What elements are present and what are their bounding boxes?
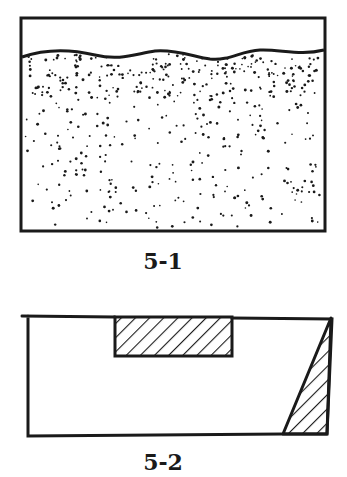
figure-5-2: [22, 316, 332, 436]
hatched-wedge: [283, 318, 331, 434]
diagram-canvas: [0, 0, 347, 477]
figure-label-5-2: 5-2: [103, 449, 223, 475]
figure-5-1: [21, 18, 325, 231]
stipple-sediment: [25, 53, 321, 229]
hatched-notch: [115, 317, 232, 356]
wavy-boundary-line: [22, 50, 324, 59]
figure-label-5-1: 5-1: [103, 248, 223, 274]
